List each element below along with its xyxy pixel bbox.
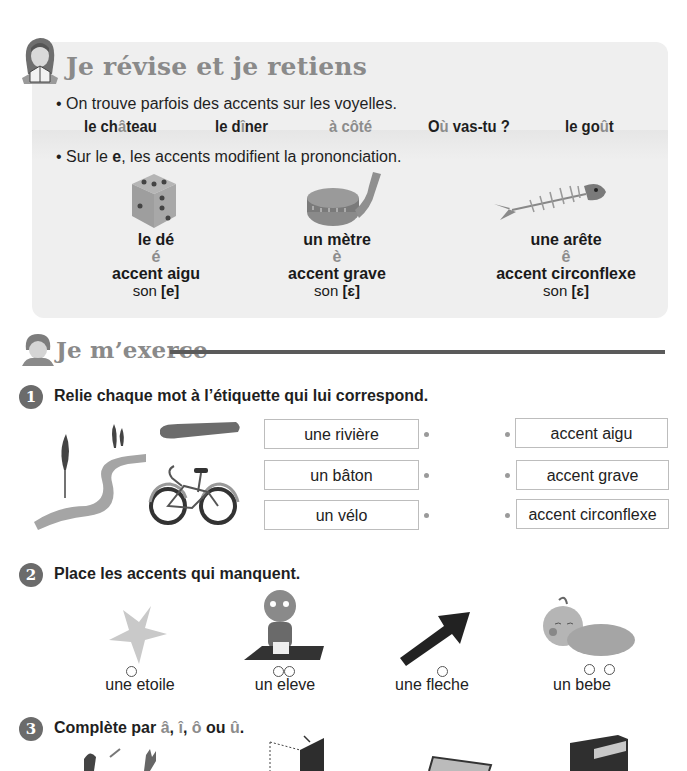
connect-dot-word-2[interactable] [424,473,429,478]
card-accent-name: accent aigu [56,265,256,282]
card-sound: son [e] [56,282,256,299]
example-diner: le dîner [215,118,268,136]
word-box-baton[interactable]: un bâton [264,460,419,490]
river-image [28,420,148,532]
exercise-3-badge: 3 [19,717,43,741]
example-ou-vas-tu: Où vas-tu ? [428,118,510,136]
word-box-velo[interactable]: un vélo [264,500,419,530]
grater-image [425,755,495,771]
card-letter: ê [466,248,666,265]
accent-blank-eleve-1[interactable] [273,666,284,677]
stick-image [158,420,242,442]
card-accent-grave: un mètre è accent grave son [ɛ] [237,231,437,299]
card-word: une arête [466,231,666,248]
exercise-3-instruction: Complète par â, î, ô ou û. [54,719,244,737]
connect-dot-word-1[interactable] [424,432,429,437]
example-chateau: le château [84,118,157,136]
girl-reading-icon [16,34,62,84]
word-bebe: un bebe [522,676,642,694]
label-box-circonflexe[interactable]: accent circonflexe [516,499,669,529]
star-image [105,600,171,666]
bicycle-image [146,462,242,526]
card-letter: è [237,248,437,265]
accent-blank-fleche-1[interactable] [437,666,448,677]
card-accent-aigu: le dé é accent aigu son [e] [56,231,256,299]
exercise-1-badge: 1 [19,385,43,409]
card-sound: son [ɛ] [237,282,437,299]
accent-blank-bebe-1[interactable] [584,664,595,675]
section-divider [170,350,665,354]
tape-measure-image [305,170,385,230]
exercise-2-instruction: Place les accents qui manquent. [54,565,300,583]
example-a-cote: à côté [329,118,372,136]
baby-image [535,596,641,666]
accent-blank-bebe-2[interactable] [604,664,615,675]
card-word: le dé [56,231,256,248]
exercise-2-badge: 2 [19,563,43,587]
card-accent-name: accent grave [237,265,437,282]
card-letter: é [56,248,256,265]
word-etoile: une etoile [80,676,200,694]
card-accent-circonflexe: une arête ê accent circonflexe son [ɛ] [466,231,666,299]
label-box-aigu[interactable]: accent aigu [515,418,668,448]
card-sound: son [ɛ] [466,282,666,299]
book-stack-image [568,733,632,771]
card-accent-name: accent circonflexe [466,265,666,282]
connect-dot-label-1[interactable] [505,432,510,437]
box-lid-image [268,732,328,771]
example-gout: le goût [565,118,614,136]
exercise-1-instruction: Relie chaque mot à l’étiquette qui lui c… [54,387,428,405]
word-box-riviere[interactable]: une rivière [264,419,419,449]
bullet-accents-voyelles: • On trouve parfois des accents sur les … [56,95,397,113]
card-word: un mètre [237,231,437,248]
accent-blank-etoile-1[interactable] [126,666,137,677]
connect-dot-label-2[interactable] [505,473,510,478]
review-title: Je révise et je retiens [66,52,367,81]
bullet-prononciation: • Sur le e, les accents modifient la pro… [56,148,401,166]
word-eleve: un eleve [225,676,345,694]
hands-image [80,745,170,771]
connect-dot-label-3[interactable] [505,513,510,518]
dice-image [130,172,178,230]
boy-thinking-icon [18,332,56,366]
connect-dot-word-3[interactable] [424,513,429,518]
accent-blank-eleve-2[interactable] [284,666,295,677]
label-box-grave[interactable]: accent grave [516,460,669,490]
fish-bone-image [490,178,610,228]
word-fleche: une fleche [372,676,492,694]
student-reading-image [240,588,326,664]
arrow-image [398,608,472,666]
